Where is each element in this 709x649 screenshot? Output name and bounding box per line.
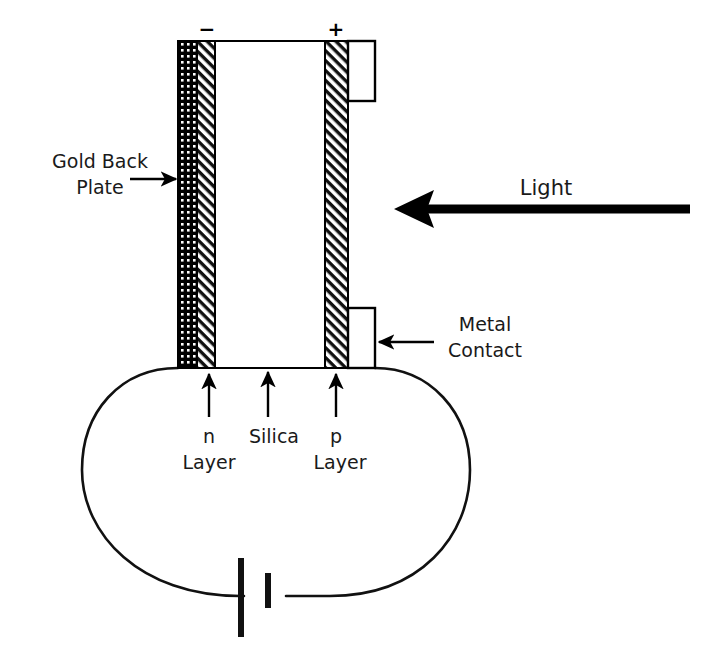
light-callout: Light [394, 176, 690, 228]
light-label: Light [520, 176, 572, 200]
metal-contact-label-line1: Metal [459, 313, 511, 335]
n-layer-label-line2: Layer [183, 451, 236, 473]
circuit-loop-wire [82, 368, 470, 596]
gold-back-plate-layer [178, 41, 197, 368]
positive-sign: + [328, 17, 345, 41]
gold-back-plate-label-line1: Gold Back [52, 150, 148, 172]
silica-label: Silica [249, 425, 299, 447]
layer-stack [178, 41, 348, 368]
metal-contact-label-line2: Contact [448, 339, 522, 361]
external-circuit [82, 368, 470, 637]
diagram-canvas: − + Gold Back Plate Light Metal Contact … [0, 0, 709, 649]
gold-back-plate-label-line2: Plate [76, 176, 124, 198]
n-layer-label-line1: n [203, 425, 215, 447]
silica-callout: Silica [249, 372, 299, 447]
n-layer-callout: n Layer [183, 374, 236, 473]
metal-contacts [348, 41, 375, 368]
p-layer-label-line1: p [330, 425, 342, 447]
negative-sign: − [199, 17, 216, 41]
p-layer-label-line2: Layer [314, 451, 367, 473]
metal-contact-callout: Metal Contact [379, 313, 522, 361]
silica-layer-region [215, 41, 325, 368]
upper-metal-contact [348, 41, 375, 101]
p-layer-callout: p Layer [314, 374, 367, 473]
p-layer-region [325, 41, 348, 368]
lower-metal-contact [348, 308, 375, 368]
gold-back-plate-callout: Gold Back Plate [52, 150, 176, 198]
n-layer-region [197, 41, 215, 368]
solar-cell-schematic: − + Gold Back Plate Light Metal Contact … [0, 0, 709, 649]
